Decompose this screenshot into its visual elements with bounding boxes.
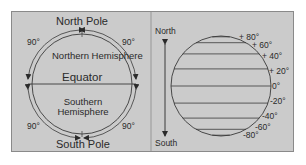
northern-hemisphere-text: Northern Hemisphere bbox=[52, 50, 143, 61]
latitude-label-m20: -20° bbox=[270, 97, 286, 106]
latitude-label-40: + 40° bbox=[262, 52, 282, 61]
angle-label-top-right: 90° bbox=[122, 38, 135, 47]
angle-label-bottom-left: 90° bbox=[27, 122, 40, 131]
right-globe bbox=[165, 36, 271, 136]
latitude-label-60: + 60° bbox=[252, 41, 272, 50]
north-pole-label: North Pole bbox=[56, 16, 108, 27]
latitude-label-20: + 20° bbox=[269, 67, 289, 76]
southern-hemisphere-text: Southern Hemisphere bbox=[57, 96, 108, 117]
north-label: North bbox=[155, 27, 176, 36]
northern-hemisphere-label: Northern Hemisphere bbox=[52, 51, 114, 61]
left-globe bbox=[28, 30, 136, 138]
angle-label-top-left: 90° bbox=[27, 38, 40, 47]
latitude-label-m40: -40° bbox=[262, 112, 278, 121]
angle-label-bottom-right: 90° bbox=[122, 122, 135, 131]
latitude-label-m80: -80° bbox=[243, 131, 259, 140]
southern-hemisphere-label: Southern Hemisphere bbox=[52, 97, 114, 116]
south-label: South bbox=[155, 139, 177, 148]
latitude-diagram bbox=[0, 0, 306, 165]
latitude-label-0: 0° bbox=[272, 82, 280, 91]
south-pole-label: South Pole bbox=[56, 139, 110, 150]
equator-label: Equator bbox=[62, 72, 102, 84]
